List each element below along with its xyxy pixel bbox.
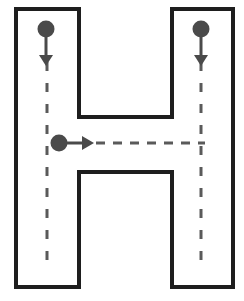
letter-h-tracing-diagram <box>0 0 244 301</box>
arrow-down-icon <box>194 55 208 66</box>
stroke-1-start-arrow <box>38 21 55 67</box>
start-dot-icon <box>51 135 68 152</box>
stroke-2-start-arrow <box>193 21 210 67</box>
start-dot-icon <box>193 21 210 38</box>
arrow-right-icon <box>82 136 94 150</box>
stroke-3-start-arrow <box>51 135 95 152</box>
start-dot-icon <box>38 21 55 38</box>
arrow-down-icon <box>39 55 53 66</box>
